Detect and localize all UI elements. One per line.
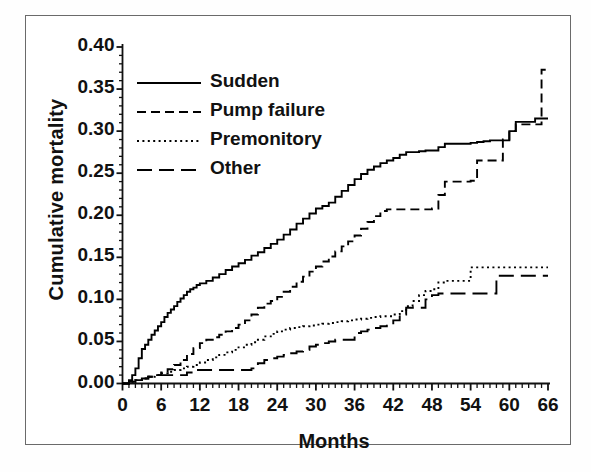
y-tick-label: 0.30 <box>51 118 115 140</box>
series-line-pump-failure <box>123 70 549 384</box>
legend-lines <box>137 83 201 170</box>
legend-label-other: Other <box>210 157 261 179</box>
y-tick-label: 0.20 <box>51 202 115 224</box>
legend-label-pump-failure: Pump failure <box>210 99 325 121</box>
y-tick-label: 0.05 <box>51 328 115 350</box>
y-tick-label: 0.40 <box>51 34 115 56</box>
figure-container: Cumulative mortality Months 061218243036… <box>0 0 591 472</box>
legend-label-premonitory: Premonitory <box>210 128 322 150</box>
series-line-premonitory <box>123 267 549 383</box>
legend-label-sudden: Sudden <box>210 70 280 92</box>
x-tick-label: 66 <box>518 394 578 416</box>
y-tick-label: 0.10 <box>51 286 115 308</box>
y-tick-label: 0.00 <box>51 371 115 393</box>
series-lines <box>123 70 549 384</box>
y-tick-label: 0.25 <box>51 160 115 182</box>
axes <box>117 44 551 391</box>
y-tick-label: 0.35 <box>51 76 115 98</box>
y-tick-label: 0.15 <box>51 244 115 266</box>
